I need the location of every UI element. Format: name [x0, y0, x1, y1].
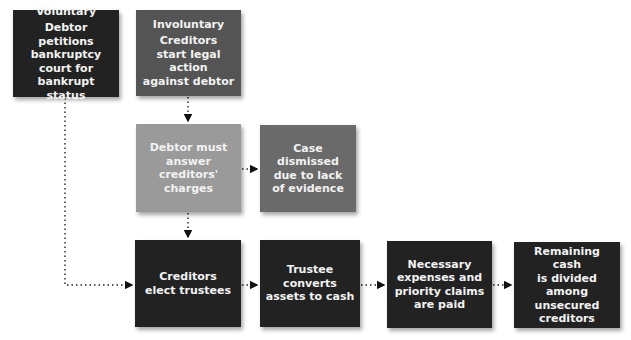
- node-dismissed: Case dismissed due to lack of evidence: [260, 125, 356, 212]
- node-involuntary: Involuntary Creditors start legal action…: [136, 10, 241, 96]
- node-line: due to lack: [274, 169, 343, 183]
- node-answer: Debtor must answer creditors' charges: [136, 124, 241, 212]
- arrow-voluntary-to-elect: [65, 98, 132, 285]
- node-title: Voluntary: [36, 5, 96, 19]
- node-line: creditors: [539, 312, 595, 326]
- node-line: unsecured: [535, 299, 600, 313]
- node-elect: Creditors elect trustees: [135, 240, 241, 327]
- node-line: Creditors: [159, 270, 216, 284]
- node-line: start legal action: [140, 48, 237, 75]
- node-line: assets to cash: [266, 290, 355, 304]
- node-line: creditors': [159, 168, 218, 182]
- node-line: answer: [166, 155, 211, 169]
- node-line: against debtor: [143, 75, 234, 89]
- node-line: Necessary: [408, 258, 472, 272]
- node-line: are paid: [414, 298, 465, 312]
- node-line: priority claims: [395, 285, 485, 299]
- node-line: among: [546, 285, 588, 299]
- node-line: bankruptcy: [31, 48, 102, 62]
- node-line: of evidence: [272, 182, 344, 196]
- node-line: court for: [39, 62, 93, 76]
- node-line: Debtor petitions: [17, 21, 115, 48]
- node-voluntary: Voluntary Debtor petitions bankruptcy co…: [13, 10, 119, 97]
- node-line: expenses and: [397, 271, 482, 285]
- node-line: Case dismissed: [264, 142, 352, 169]
- node-title: Involuntary: [153, 18, 224, 32]
- node-line: bankrupt status: [17, 75, 115, 102]
- node-line: is divided: [537, 272, 597, 286]
- node-line: Remaining cash: [518, 245, 616, 272]
- node-line: charges: [164, 182, 213, 196]
- node-expenses: Necessary expenses and priority claims a…: [387, 241, 492, 328]
- node-convert: Trustee converts assets to cash: [260, 240, 360, 327]
- node-line: Debtor must: [150, 141, 228, 155]
- node-divided: Remaining cash is divided among unsecure…: [514, 242, 620, 328]
- node-line: Creditors: [160, 34, 217, 48]
- node-line: Trustee converts: [264, 263, 356, 290]
- node-line: elect trustees: [145, 284, 231, 298]
